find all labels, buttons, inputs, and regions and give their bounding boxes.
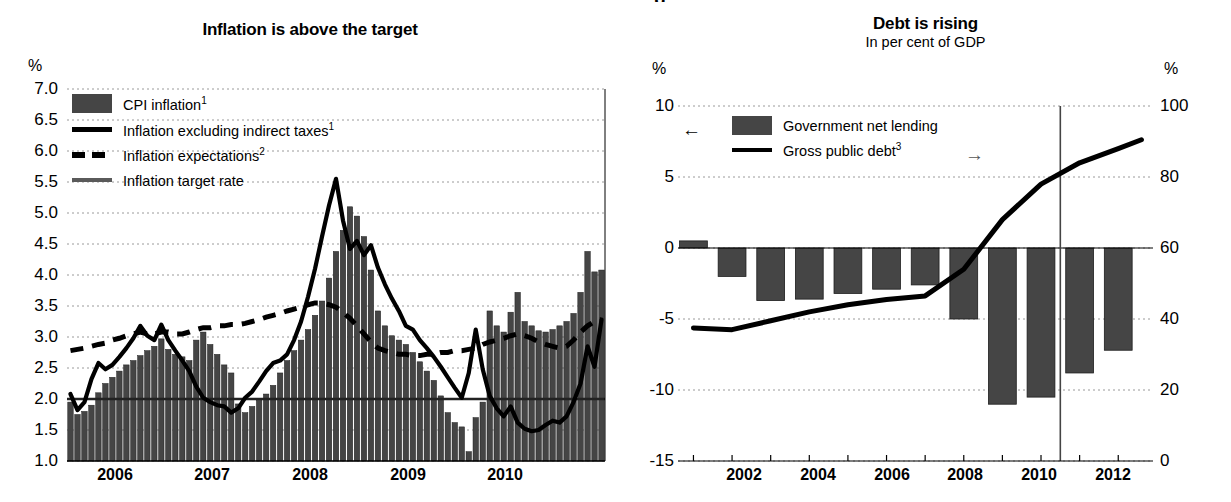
right-ytick-right-100: 100 <box>1160 96 1220 116</box>
legend-item-cpi-inflation: CPI inflation1 <box>70 90 334 117</box>
legend-item-inflation-expectations: Inflation expectations2 <box>70 142 334 167</box>
right-xtick-2006: 2006 <box>874 466 910 484</box>
right-xtick-2012: 2012 <box>1095 466 1131 484</box>
right-chart-legend: Government net lending Gross public debt… <box>730 112 938 162</box>
legend-item-government-net-lending: Government net lending <box>730 112 938 138</box>
right-chart-subtitle: In per cent of GDP <box>620 34 1231 50</box>
legend-item-gross-public-debt: Gross public debt3 <box>730 138 938 162</box>
left-chart-title: Inflation is above the target <box>0 20 620 40</box>
left-ytick-4.0: 4.0 <box>10 265 58 285</box>
right-ytick-left-10: 10 <box>622 96 674 116</box>
gray-line-swatch-icon <box>70 170 113 190</box>
dashed-line-swatch-icon <box>70 145 113 165</box>
left-xtick-2010: 2010 <box>487 466 523 484</box>
left-y-axis-unit: % <box>28 57 42 75</box>
left-axis-arrow-icon: ← <box>682 120 701 139</box>
left-xtick-2006: 2006 <box>97 466 133 484</box>
left-ytick-6.0: 6.0 <box>10 141 58 161</box>
left-ytick-2.0: 2.0 <box>10 389 58 409</box>
inflation-chart-panel: Inflation is above the target % 7.0 6.5 … <box>0 0 620 502</box>
left-ytick-5.0: 5.0 <box>10 203 58 223</box>
legend-label-excluding-indirect-taxes: Inflation excluding indirect taxes1 <box>123 121 334 139</box>
legend-label-cpi-inflation: CPI inflation1 <box>123 95 207 113</box>
right-ytick-left-m10: -10 <box>622 380 674 400</box>
left-xtick-2008: 2008 <box>292 466 328 484</box>
left-ytick-4.5: 4.5 <box>10 234 58 254</box>
right-ytick-right-80: 80 <box>1160 167 1220 187</box>
right-ytick-right-40: 40 <box>1160 309 1220 329</box>
right-right-axis-unit: % <box>1164 60 1178 78</box>
right-ytick-left-0: 0 <box>622 238 674 258</box>
legend-label-gross-public-debt: Gross public debt3 <box>783 141 901 159</box>
right-chart-title: Debt is rising <box>620 14 1231 34</box>
legend-label-government-net-lending: Government net lending <box>783 116 938 134</box>
legend-item-inflation-target-rate: Inflation target rate <box>70 167 334 192</box>
bar-swatch-icon <box>70 94 113 114</box>
legend-label-inflation-target-rate: Inflation target rate <box>123 171 244 189</box>
left-ytick-3.0: 3.0 <box>10 327 58 347</box>
right-xtick-2004: 2004 <box>800 466 836 484</box>
left-ytick-1.5: 1.5 <box>10 420 58 440</box>
right-xtick-2002: 2002 <box>726 466 762 484</box>
solid-line-swatch-icon <box>730 140 773 160</box>
debt-chart-panel: Debt is rising In per cent of GDP % % 10… <box>620 0 1231 502</box>
right-ytick-right-60: 60 <box>1160 238 1220 258</box>
bar-swatch-icon <box>730 115 773 135</box>
right-left-axis-unit: % <box>652 60 666 78</box>
right-ytick-right-20: 20 <box>1160 380 1220 400</box>
right-xtick-2010: 2010 <box>1021 466 1057 484</box>
left-ytick-1.0: 1.0 <box>10 451 58 471</box>
legend-label-inflation-expectations: Inflation expectations2 <box>123 146 265 164</box>
left-xtick-2009: 2009 <box>390 466 426 484</box>
right-ytick-left-m15: -15 <box>622 451 674 471</box>
legend-item-excluding-indirect-taxes: Inflation excluding indirect taxes1 <box>70 117 334 142</box>
left-ytick-3.5: 3.5 <box>10 296 58 316</box>
left-ytick-5.5: 5.5 <box>10 172 58 192</box>
right-ytick-left-5: 5 <box>622 167 674 187</box>
right-ytick-right-0: 0 <box>1160 451 1220 471</box>
right-xtick-2008: 2008 <box>947 466 983 484</box>
left-ytick-7.0: 7.0 <box>10 79 58 99</box>
left-chart-legend: CPI inflation1 Inflation excluding indir… <box>70 90 334 192</box>
left-ytick-2.5: 2.5 <box>10 358 58 378</box>
right-axis-arrow-icon: → <box>965 145 984 164</box>
right-ytick-left-m5: -5 <box>622 309 674 329</box>
left-xtick-2007: 2007 <box>194 466 230 484</box>
solid-line-swatch-icon <box>70 120 113 140</box>
left-ytick-6.5: 6.5 <box>10 110 58 130</box>
